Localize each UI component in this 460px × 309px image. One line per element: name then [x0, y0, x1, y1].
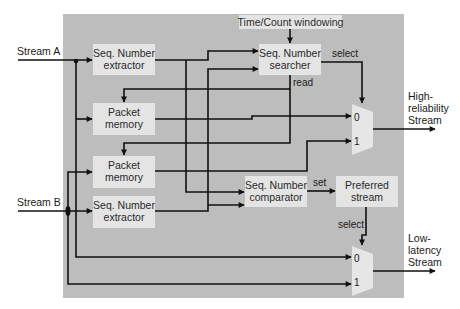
ll-output-label-3: Stream [408, 256, 442, 268]
extractor-a-label-2: extractor [104, 59, 145, 71]
packet-memory-a: Packet memory [93, 103, 155, 135]
packet-memory-b-label-2: memory [105, 171, 144, 183]
comparator-label-1: Seq. Number [245, 179, 307, 191]
preferred-stream-label-2: stream [351, 191, 383, 203]
comparator-label-2: comparator [249, 191, 303, 203]
packet-memory-b-label-1: Packet [108, 159, 140, 171]
select-signal-label-bottom: select [338, 219, 364, 230]
ll-output-label-1: Low- [408, 232, 431, 244]
mux-hr-input-1-label: 1 [354, 136, 360, 147]
packet-memory-a-label-2: memory [105, 118, 144, 130]
stream-b-label: Stream B [17, 196, 61, 208]
seq-number-extractor-b: Seq. Number extractor [93, 196, 155, 228]
mux-ll-input-0-label: 0 [354, 253, 360, 264]
select-signal-label-top: select [332, 48, 358, 59]
time-count-windowing-block: Time/Count windowing [238, 15, 344, 29]
seq-number-comparator: Seq. Number comparator [245, 176, 307, 207]
hr-output-label-3: Stream [408, 114, 442, 126]
set-signal-label: set [313, 177, 327, 188]
hr-output-label-2: reliability [408, 102, 450, 114]
low-latency-mux: 0 1 [352, 246, 373, 296]
extractor-b-label-1: Seq. Number [93, 199, 155, 211]
high-reliability-mux: 0 1 [352, 104, 373, 155]
low-latency-output-label: Low- latency Stream [408, 232, 442, 268]
seq-number-searcher: Seq. Number searcher [259, 44, 321, 75]
seq-number-extractor-a: Seq. Number extractor [93, 44, 155, 75]
preferred-stream-block: Preferred stream [336, 176, 398, 207]
mux-ll-input-1-label: 1 [354, 277, 360, 288]
redundancy-block-diagram: Time/Count windowing Seq. Number extract… [0, 0, 460, 309]
searcher-label-1: Seq. Number [259, 47, 321, 59]
stream-a-label: Stream A [17, 45, 60, 57]
extractor-a-label-1: Seq. Number [93, 47, 155, 59]
ll-output-label-2: latency [408, 244, 442, 256]
packet-memory-b: Packet memory [93, 156, 155, 188]
preferred-stream-label-1: Preferred [345, 179, 389, 191]
hr-output-label-1: High- [408, 90, 434, 102]
high-reliability-output-label: High- reliability Stream [408, 90, 450, 126]
read-signal-label: read [293, 77, 313, 88]
extractor-b-label-2: extractor [104, 211, 145, 223]
searcher-label-2: searcher [270, 59, 311, 71]
packet-memory-a-label-1: Packet [108, 106, 140, 118]
mux-hr-input-0-label: 0 [354, 112, 360, 123]
time-count-windowing-label: Time/Count windowing [238, 16, 344, 28]
